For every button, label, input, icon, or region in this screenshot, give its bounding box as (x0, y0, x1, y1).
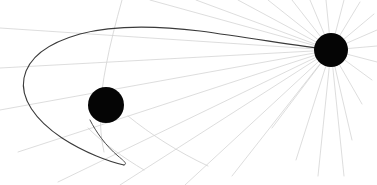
diagram-background (0, 0, 377, 185)
orbital-diagram-canvas (0, 0, 377, 185)
planet-body (88, 87, 124, 123)
orbital-diagram-svg (0, 0, 377, 185)
star-body (314, 33, 348, 67)
